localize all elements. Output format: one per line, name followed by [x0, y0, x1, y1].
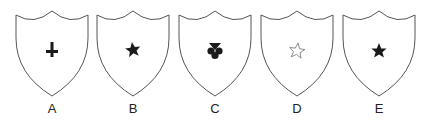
shield-label: E — [339, 101, 419, 117]
shield-b: B — [93, 0, 173, 125]
shield-e: E — [339, 0, 419, 125]
shield-label: C — [175, 101, 255, 117]
shield-c: C — [175, 0, 255, 125]
shield-label: D — [257, 101, 337, 117]
shield-outline-icon — [175, 0, 255, 100]
shield-outline-icon — [12, 0, 92, 100]
shield-outline-icon — [339, 0, 419, 100]
shield-outline-icon — [257, 0, 337, 100]
shield-outline-icon — [93, 0, 173, 100]
shield-label: A — [12, 101, 92, 117]
shield-d: D — [257, 0, 337, 125]
shield-a: A — [12, 0, 92, 125]
shield-label: B — [93, 101, 173, 117]
